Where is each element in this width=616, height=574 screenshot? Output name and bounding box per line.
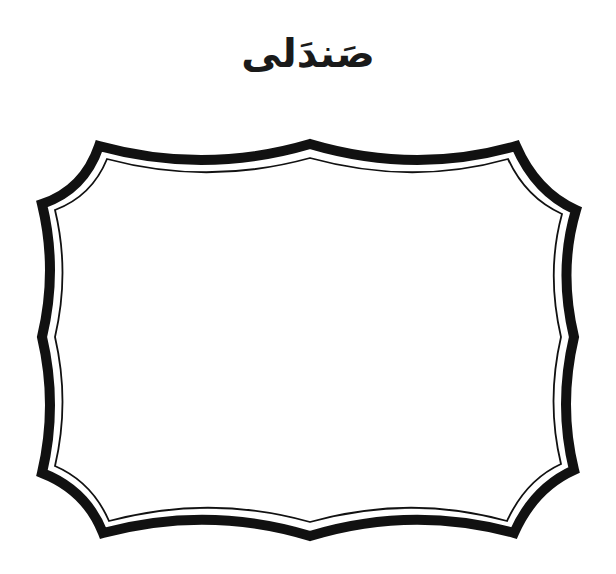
- decorative-frame: [0, 0, 616, 574]
- frame-outer-border: [42, 144, 576, 536]
